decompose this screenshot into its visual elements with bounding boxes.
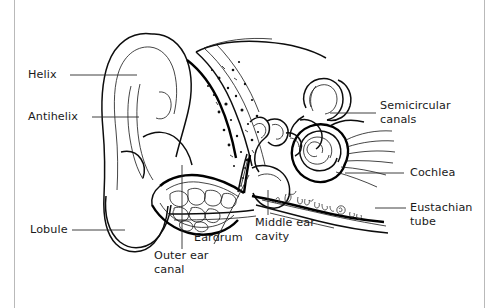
label-middle-ear-cavity: Middle ear cavity [255,216,315,243]
leader-lines [70,75,406,249]
label-antihelix: Antihelix [28,110,78,124]
label-eardrum: Eardrum [194,231,243,245]
label-semicircular-canals: Semicircular canals [380,99,451,126]
label-outer-ear-canal: Outer ear canal [154,249,209,276]
pinna-outline [102,34,192,252]
label-lobule: Lobule [30,223,68,237]
label-cochlea: Cochlea [410,166,455,180]
label-eustachian-tube: Eustachian tube [410,201,473,228]
inner-ear [290,78,395,187]
ear-anatomy-figure: Helix Antihelix Lobule Outer ear canal E… [0,0,495,308]
label-helix: Helix [28,68,57,82]
ear-illustration [0,0,495,308]
